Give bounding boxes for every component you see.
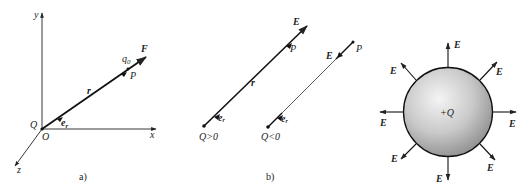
unit-vector-label: er [61, 117, 68, 130]
field-line-positive [204, 26, 307, 126]
field-label-left: E [379, 117, 387, 128]
field-label-bottom: E [435, 173, 443, 184]
point-p-label: P [129, 70, 136, 81]
unit-vector-label-negative: er [281, 113, 288, 124]
panel-b: E P r er Q>0 E P er Q<0 b) [199, 16, 362, 183]
point-p-label-positive: P [289, 43, 296, 54]
field-label-negative: E [325, 50, 333, 61]
field-label-bottom-right: E [486, 162, 494, 173]
field-label-top: E [453, 39, 461, 50]
axis-x-label: x [149, 129, 155, 140]
point-p-label-negative: P [355, 43, 362, 54]
field-arrow-down-right [480, 144, 495, 160]
position-vector-label: r [251, 77, 255, 88]
source-charge-label: Q [30, 119, 38, 130]
panel-c: +Q E E E E E E E E [379, 39, 516, 184]
field-label-positive: E [292, 16, 300, 27]
field-label-top-right: E [495, 66, 503, 77]
sphere-charge-label: +Q [440, 107, 455, 118]
z-axis [15, 129, 42, 166]
charge-dot-positive [202, 124, 206, 128]
charge-label-positive: Q>0 [199, 131, 218, 142]
field-label-top-left: E [389, 65, 397, 76]
field-arrow-up-left [401, 63, 416, 80]
position-vector-r [42, 57, 146, 129]
unit-vector-label-positive: er [218, 112, 225, 123]
field-arrow-up-right [480, 62, 497, 80]
charge-dot-negative [266, 125, 270, 129]
field-arrow-down-left [401, 144, 416, 159]
point-p-dot-negative [352, 41, 355, 44]
caption-a: a) [79, 171, 87, 183]
panel-a: y x z Q O er r q0 P F a) [15, 9, 156, 183]
test-charge-label: q0 [122, 53, 131, 66]
electric-field-diagram: y x z Q O er r q0 P F a) E P r er Q>0 E … [0, 0, 532, 196]
position-vector-label: r [87, 85, 91, 96]
field-label-right: E [508, 118, 516, 129]
charge-label-negative: Q<0 [261, 131, 280, 142]
axis-z-label: z [16, 164, 21, 175]
point-p-dot [127, 68, 130, 71]
axis-y-label: y [33, 9, 39, 20]
origin-label: O [42, 131, 49, 142]
force-label: F [140, 43, 148, 54]
caption-b: b) [266, 171, 274, 183]
field-label-bottom-left: E [390, 153, 398, 164]
